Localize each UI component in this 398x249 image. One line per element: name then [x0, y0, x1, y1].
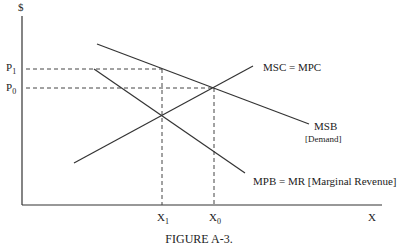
- msb-curve: [97, 44, 309, 124]
- x0-label: X0: [209, 212, 221, 223]
- x1-label: X1: [157, 212, 169, 223]
- figure-caption: FIGURE A-3.: [0, 232, 398, 247]
- mpb-curve: [94, 69, 245, 173]
- economics-diagram: [0, 0, 398, 249]
- mpb-label: MPB = MR [Marginal Revenue]: [253, 176, 397, 187]
- p1-label: P1: [6, 62, 16, 73]
- y-axis-label: $: [18, 2, 24, 13]
- p0-label: P0: [6, 82, 16, 93]
- msc-label: MSC = MPC: [263, 62, 321, 73]
- msb-label: MSB: [314, 121, 337, 132]
- msc-curve: [74, 66, 253, 163]
- msb-sublabel: [Demand]: [305, 135, 341, 144]
- x-axis-label: X: [368, 212, 376, 223]
